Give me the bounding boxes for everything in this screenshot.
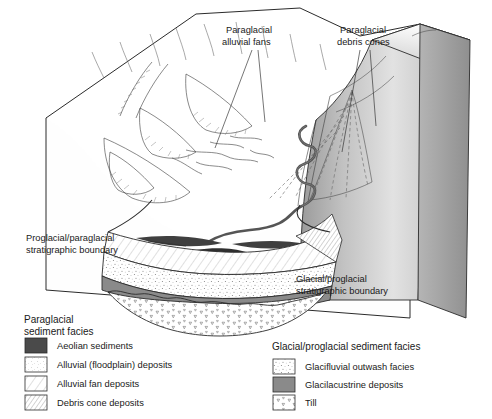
block-diagram: Paraglacial alluvial fans Paraglacial de… bbox=[0, 0, 492, 419]
legend-item-debris-cone[interactable]: Debris cone deposits bbox=[25, 395, 144, 410]
legend-item-glacifluvial[interactable]: Glacifluvial outwash facies bbox=[273, 359, 414, 374]
legend-left-title-l1: Paraglacial bbox=[24, 314, 73, 325]
legend-item-glacilacustrine[interactable]: Glacilacustrine deposits bbox=[273, 377, 404, 392]
annotation-debris-cones-l2: debris cones bbox=[337, 37, 390, 47]
legend-left-title-l2: sediment facies bbox=[24, 326, 93, 337]
swatch-till bbox=[273, 395, 295, 410]
legend-label-glacifluvial: Glacifluvial outwash facies bbox=[305, 362, 414, 372]
legend-item-alluvial-fan[interactable]: Alluvial fan deposits bbox=[25, 376, 140, 391]
legend-label-alluvial-floodplain: Alluvial (floodplain) deposits bbox=[57, 360, 173, 370]
annotation-proglacial-boundary-l1: Proglacial/paraglacial bbox=[26, 233, 114, 243]
legend-paraglacial: Paraglacial sediment facies Aeolian sedi… bbox=[24, 314, 173, 410]
legend-label-alluvial-fan: Alluvial fan deposits bbox=[57, 379, 140, 389]
legend-label-aeolian: Aeolian sediments bbox=[57, 341, 133, 351]
wall-side-face bbox=[418, 24, 470, 318]
annotation-alluvial-fans-l2: alluvial fans bbox=[222, 37, 271, 47]
legend-label-till: Till bbox=[305, 398, 317, 408]
legend-item-alluvial-floodplain[interactable]: Alluvial (floodplain) deposits bbox=[25, 357, 173, 372]
annotation-alluvial-fans-l1: Paraglacial bbox=[226, 25, 272, 35]
legend-label-glacilacustrine: Glacilacustrine deposits bbox=[305, 380, 404, 390]
annotation-debris-cones-l1: Paraglacial bbox=[340, 25, 386, 35]
swatch-aeolian bbox=[25, 338, 47, 353]
annotation-proglacial-boundary-l2: stratigraphic boundary bbox=[26, 245, 118, 255]
annotation-glacial-boundary-l1: Glacial/proglacial bbox=[296, 274, 367, 284]
swatch-debris-cone bbox=[25, 395, 47, 410]
legend-label-debris-cone: Debris cone deposits bbox=[57, 398, 144, 408]
swatch-glacilacustrine bbox=[273, 377, 295, 392]
swatch-glacifluvial bbox=[273, 359, 295, 374]
swatch-alluvial-floodplain bbox=[25, 357, 47, 372]
legend-glacial: Glacial/proglacial sediment facies Glaci… bbox=[272, 341, 420, 410]
annotation-glacial-boundary-l2: stratigraphic boundary bbox=[296, 286, 388, 296]
legend-item-aeolian[interactable]: Aeolian sediments bbox=[25, 338, 133, 353]
legend-right-title: Glacial/proglacial sediment facies bbox=[272, 341, 420, 352]
legend-item-till[interactable]: Till bbox=[273, 395, 317, 410]
swatch-alluvial-fan bbox=[25, 376, 47, 391]
